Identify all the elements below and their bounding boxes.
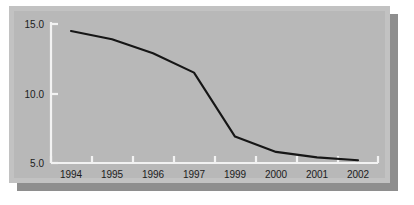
x-tick-label-2001: 2001	[306, 169, 329, 180]
data-series-line	[71, 31, 358, 160]
y-tick-label-15: 15.0	[25, 19, 45, 30]
y-tick-label-5: 5.0	[30, 158, 44, 169]
chart-figure: 15.0 10.0 5.0 1994	[0, 0, 414, 205]
line-chart: 15.0 10.0 5.0 1994	[0, 0, 414, 205]
y-tick-label-10: 10.0	[25, 89, 45, 100]
x-tick-label-2000: 2000	[265, 169, 288, 180]
x-axis-labels: 1994 1995 1996 1997 1999 2000 2001 2002	[60, 169, 370, 180]
x-tick-label-1997: 1997	[183, 169, 206, 180]
y-axis-labels: 15.0 10.0 5.0	[25, 19, 45, 169]
x-tick-label-1995: 1995	[101, 169, 124, 180]
x-tick-label-1996: 1996	[142, 169, 165, 180]
axes	[51, 22, 378, 163]
x-tick-label-2002: 2002	[347, 169, 370, 180]
x-tick-label-1994: 1994	[60, 169, 83, 180]
x-tick-label-1999: 1999	[224, 169, 247, 180]
